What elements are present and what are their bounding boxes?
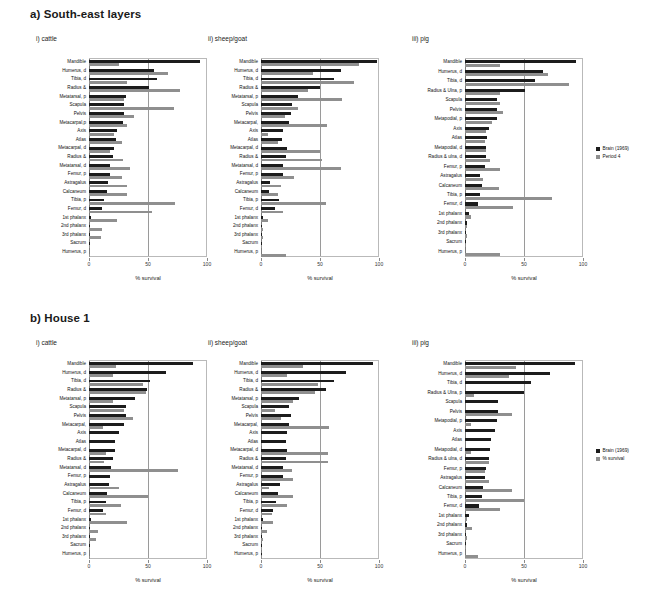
chart-b-ii-title: ii) sheep/goat xyxy=(208,339,247,346)
bar-series2 xyxy=(465,168,500,171)
bar-row xyxy=(261,59,378,68)
bar-row xyxy=(89,551,206,560)
bar-row xyxy=(261,180,378,189)
bar-series2 xyxy=(89,391,146,394)
x-tick-label: 100 xyxy=(579,563,587,569)
bar-row xyxy=(465,513,582,522)
bar-row xyxy=(465,399,582,408)
legend-a: Brain (1969)Period 4 xyxy=(596,146,629,162)
category-label: Pelvis xyxy=(198,412,260,421)
bar-row xyxy=(261,378,378,387)
category-label: Pelvis xyxy=(402,105,464,114)
bar-row xyxy=(261,491,378,500)
bar-series2 xyxy=(465,73,548,76)
bar-row xyxy=(261,517,378,526)
category-label: Humerus, d xyxy=(198,369,260,378)
bar-row xyxy=(261,189,378,198)
bar-row xyxy=(89,197,206,206)
bar-series2 xyxy=(261,383,318,386)
category-label: Radius & xyxy=(198,153,260,162)
bar-row xyxy=(261,94,378,103)
category-label: Femur, p xyxy=(198,472,260,481)
bar-series2 xyxy=(89,556,90,559)
category-label: Humerus, d xyxy=(26,67,88,76)
bar-row xyxy=(89,120,206,129)
bar-series2 xyxy=(465,536,467,539)
bar-row xyxy=(89,85,206,94)
bar-series2 xyxy=(465,178,483,181)
bar-series2 xyxy=(465,555,478,558)
bar-row xyxy=(89,370,206,379)
bar-series2 xyxy=(261,391,315,394)
category-label: Metatarsal, p xyxy=(198,93,260,102)
bar-series2 xyxy=(89,107,174,110)
bar-series2 xyxy=(89,547,90,550)
category-label: Radius & Ulna, p xyxy=(402,86,464,95)
bar-row xyxy=(89,404,206,413)
x-tick-label: 100 xyxy=(375,563,383,569)
bar-row xyxy=(465,418,582,427)
category-label: Femur, d xyxy=(26,205,88,214)
chart-b-i: MandibleHumerus, dTibia, dRadius &Metata… xyxy=(26,360,212,590)
bar-series2 xyxy=(465,83,569,86)
category-label: 2nd phalanx xyxy=(402,219,464,228)
category-label: Metacarpal,p xyxy=(26,118,88,127)
bar-row xyxy=(261,439,378,448)
bar-series2 xyxy=(465,149,486,152)
bar-series2 xyxy=(261,219,268,222)
bar-series2 xyxy=(89,98,124,101)
category-label: 2nd phalanx xyxy=(198,524,260,533)
plot-area xyxy=(261,360,379,559)
x-axis-title: % survival xyxy=(89,577,207,583)
bar-series2 xyxy=(89,193,127,196)
bar-series2 xyxy=(89,383,143,386)
bar-row xyxy=(89,482,206,491)
bar-series2 xyxy=(89,228,102,231)
bar-series2 xyxy=(261,141,278,144)
bar-series2 xyxy=(465,121,492,124)
bar-row xyxy=(465,427,582,436)
bar-row xyxy=(89,448,206,457)
bar-series2 xyxy=(465,375,509,378)
category-label: Femur, p xyxy=(402,162,464,171)
bar-series2 xyxy=(465,253,500,256)
bar-series2 xyxy=(261,115,285,118)
bar-row xyxy=(261,534,378,543)
bar-series2 xyxy=(89,487,119,490)
x-tick-label: 50 xyxy=(317,261,323,267)
x-tick-label: 100 xyxy=(375,261,383,267)
x-tick-label: 50 xyxy=(521,563,527,569)
category-label: 2nd phalanx xyxy=(402,521,464,530)
bar-series2 xyxy=(261,478,293,481)
bar-series2 xyxy=(261,254,286,257)
bar-row xyxy=(465,475,582,484)
plot-area xyxy=(465,58,583,257)
bar-series2 xyxy=(89,521,127,524)
bar-series1 xyxy=(465,381,531,384)
bar-series2 xyxy=(261,521,273,524)
x-axis-title: % survival xyxy=(261,275,379,281)
bar-series2 xyxy=(261,133,268,136)
chart-b-ii: MandibleHumerus, dTibia, dRadius &Metata… xyxy=(198,360,384,590)
category-label: Radius & Ulna, p xyxy=(402,388,464,397)
category-label-column: MandibleHumerus, dTibia, dRadius &Metata… xyxy=(198,360,260,559)
bar-series2 xyxy=(465,423,471,426)
bar-row xyxy=(465,484,582,493)
bar-series2 xyxy=(465,451,471,454)
x-tick-label: 50 xyxy=(145,261,151,267)
x-axis-title: % survival xyxy=(465,275,583,281)
bar-row xyxy=(89,361,206,370)
bar-series2 xyxy=(89,133,114,136)
bar-row xyxy=(261,128,378,137)
bar-row xyxy=(261,448,378,457)
bar-row xyxy=(89,430,206,439)
chart-a-i: MandibleHumerus, dTibia, dRadius &Metata… xyxy=(26,58,212,288)
category-label: Femur, d xyxy=(198,507,260,516)
category-label: Radius & xyxy=(198,84,260,93)
category-label: Femur, p xyxy=(402,464,464,473)
category-label: 2nd phalanx xyxy=(26,524,88,533)
bar-series2 xyxy=(89,89,180,92)
bar-row xyxy=(89,543,206,552)
bar-row xyxy=(465,361,582,370)
bar-series2 xyxy=(89,495,148,498)
